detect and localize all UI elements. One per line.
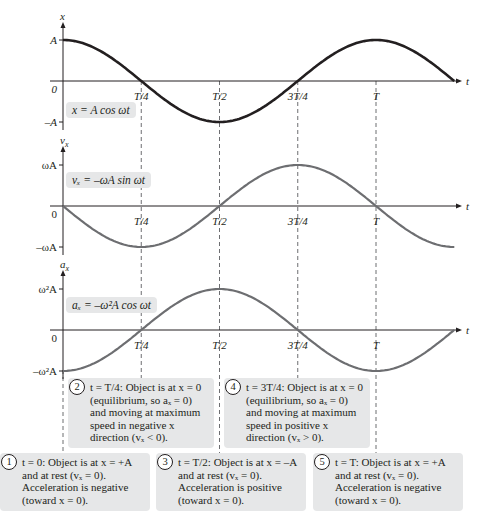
x-tick-label: T: [373, 90, 380, 102]
x-axis-label: t: [466, 200, 470, 212]
x-axis-label: t: [466, 75, 470, 87]
y-tick-label-zero: 0: [52, 332, 58, 344]
note-text-2: t = T/4: Object is at x = 0 (equilibrium…: [90, 381, 208, 444]
velocity-equation: vₓ = –ωA sin ωt: [66, 172, 151, 188]
x-axis-arrow-icon: [456, 79, 462, 84]
note-text-5: t = T: Object is at x = +A and at rest (…: [335, 456, 457, 506]
x-tick-label: 3T/4: [287, 339, 309, 351]
note-text-4: t = 3T/4: Object is at x = 0 (equilibriu…: [246, 381, 364, 444]
y-tick-label-top: A: [49, 34, 57, 46]
x-tick-label: T/2: [212, 215, 227, 227]
x-tick-label: T/4: [134, 339, 149, 351]
y-tick-label-top: ωA: [42, 159, 57, 171]
y-tick-label-bottom: –ωA: [35, 241, 57, 253]
y-axis-label-subscript: x: [65, 264, 70, 273]
note-4: 4 t = 3T/4: Object is at x = 0 (equilibr…: [224, 378, 370, 448]
x-axis-arrow-icon: [456, 328, 462, 333]
acceleration-graph: axtω²A0–ω²AT/4T/23T/4T: [32, 258, 470, 379]
note-1: 1 t = 0: Object is at x = +A and at rest…: [0, 453, 150, 511]
note-2: 2 t = T/4: Object is at x = 0 (equilibri…: [68, 378, 214, 448]
note-text-3: t = T/2: Object is at x = –A and at rest…: [178, 456, 300, 506]
step-number-1: 1: [1, 454, 17, 470]
acceleration-equation: aₓ = –ω²A cos ωt: [66, 297, 157, 313]
y-axis-label-subscript: x: [64, 140, 69, 149]
x-tick-label: T/2: [212, 339, 227, 351]
y-axis-label: ax: [60, 258, 70, 273]
note-5: 5 t = T: Object is at x = +A and at rest…: [313, 453, 463, 511]
y-tick-label-zero: 0: [52, 208, 58, 220]
x-axis-label: t: [466, 324, 470, 336]
x-tick-label: 3T/4: [287, 90, 309, 102]
y-tick-label-bottom: –A: [44, 116, 58, 128]
y-axis-label: vx: [60, 134, 69, 149]
step-number-2: 2: [69, 379, 85, 395]
y-tick-label-top: ω²A: [39, 283, 58, 295]
x-tick-label: T/2: [212, 90, 227, 102]
y-axis-arrow-icon: [61, 22, 66, 28]
x-tick-label: 3T/4: [287, 215, 309, 227]
step-number-3: 3: [157, 454, 173, 470]
note-3: 3 t = T/2: Object is at x = –A and at re…: [156, 453, 306, 511]
x-tick-label: T/4: [134, 215, 149, 227]
y-axis-label: x: [59, 10, 65, 22]
x-tick-label: T: [373, 339, 380, 351]
velocity-graph: vxtωA0–ωAT/4T/23T/4T: [35, 134, 470, 255]
step-number-5: 5: [314, 454, 330, 470]
note-text-1: t = 0: Object is at x = +A and at rest (…: [22, 456, 144, 506]
step-number-4: 4: [225, 379, 241, 395]
x-axis-arrow-icon: [456, 204, 462, 209]
y-tick-label-zero: 0: [52, 83, 58, 95]
position-equation: x = A cos ωt: [66, 102, 136, 118]
y-tick-label-bottom: –ω²A: [32, 365, 57, 377]
x-tick-label: T/4: [134, 90, 149, 102]
x-tick-label: T: [373, 215, 380, 227]
